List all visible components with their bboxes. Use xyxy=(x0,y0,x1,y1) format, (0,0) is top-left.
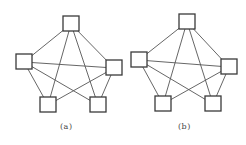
node-bottom-left xyxy=(155,96,171,111)
node-bottom-right xyxy=(205,96,221,111)
graph-figure xyxy=(0,0,246,145)
node-left xyxy=(131,52,147,67)
node-bottom-left xyxy=(40,97,56,112)
edge-top-bottom-right xyxy=(187,22,213,104)
node-bottom-right xyxy=(90,97,106,112)
edge-left-right xyxy=(139,60,229,67)
edge-top-bottom-right xyxy=(71,24,98,105)
edge-left-right xyxy=(24,62,114,68)
caption-a: (a) xyxy=(60,122,73,131)
node-top xyxy=(63,16,79,31)
graph-b xyxy=(131,14,237,111)
caption-b: (b) xyxy=(178,122,191,131)
node-right xyxy=(106,60,122,75)
node-right xyxy=(221,59,237,74)
graph-a xyxy=(16,16,122,112)
node-left xyxy=(16,54,32,69)
node-top xyxy=(179,14,195,29)
